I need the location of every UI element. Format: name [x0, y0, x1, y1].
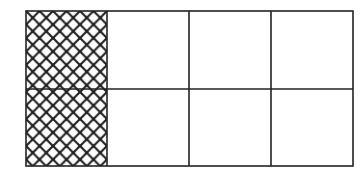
fraction-grid-diagram	[0, 0, 361, 183]
shaded-cell-top-left	[26, 11, 107, 89]
shaded-cell-bottom-left	[26, 89, 107, 166]
